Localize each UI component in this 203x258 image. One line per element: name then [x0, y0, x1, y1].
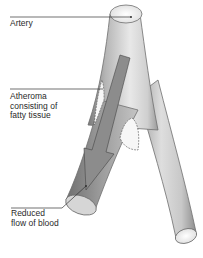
artery-diagram: Artery Atheroma consisting of fatty tiss… — [0, 0, 203, 258]
artery-label: Artery — [10, 19, 33, 29]
reduced-flow-label: Reduced flow of blood — [11, 209, 59, 228]
atheroma-label: Atheroma consisting of fatty tissue — [10, 92, 57, 121]
artery-opening — [110, 5, 142, 23]
